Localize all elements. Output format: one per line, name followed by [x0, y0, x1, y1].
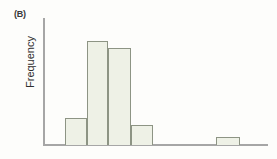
figure-panel: (B) Frequency	[0, 0, 277, 159]
plot-area: Frequency	[0, 0, 277, 159]
y-axis-title: Frequency	[24, 12, 36, 112]
histogram-bar	[131, 125, 153, 145]
y-axis-line	[43, 18, 45, 146]
histogram-bar	[87, 41, 108, 145]
histogram-bar	[65, 118, 87, 145]
histogram-bar	[216, 137, 240, 145]
histogram-bar	[108, 48, 131, 145]
